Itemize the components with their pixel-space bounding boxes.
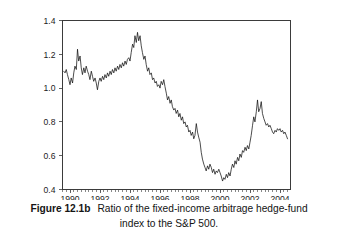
x-tick-label: 1996 — [150, 194, 169, 200]
figure-caption: Figure 12.1bRatio of the fixed-income ar… — [0, 202, 338, 231]
figure-container: 0.40.60.81.01.21.4 199019921994199619982… — [0, 0, 338, 247]
x-axis-tick-labels: 19901992199419961998200020022004 — [60, 194, 289, 200]
y-tick-label: 0.8 — [44, 117, 56, 127]
y-tick-label: 0.4 — [44, 185, 56, 195]
x-tick-label: 1992 — [90, 194, 109, 200]
x-tick-label: 2004 — [270, 194, 289, 200]
x-tick-label: 1994 — [120, 194, 139, 200]
y-tick-label: 0.6 — [44, 151, 56, 161]
x-tick-label: 2002 — [240, 194, 259, 200]
chart-plot-area: 0.40.60.81.01.21.4 199019921994199619982… — [0, 0, 338, 200]
figure-number-label: Figure 12.1b — [30, 203, 90, 214]
ratio-series-line — [64, 32, 288, 181]
x-tick-label: 1990 — [60, 194, 79, 200]
plot-frame-border — [63, 21, 291, 190]
caption-first-line: Figure 12.1bRatio of the fixed-income ar… — [0, 202, 338, 217]
caption-text-line-2: index to the S&P 500. — [0, 217, 338, 232]
y-tick-label: 1.2 — [44, 50, 56, 60]
line-chart: 0.40.60.81.01.21.4 199019921994199619982… — [0, 0, 338, 200]
caption-text-line-1: Ratio of the fixed-income arbitrage hedg… — [97, 203, 307, 214]
y-tick-label: 1.0 — [44, 83, 56, 93]
y-axis-tick-labels: 0.40.60.81.01.21.4 — [44, 16, 56, 195]
x-axis-tick-marks — [63, 190, 288, 194]
x-tick-label: 1998 — [180, 194, 199, 200]
y-tick-label: 1.4 — [44, 16, 56, 26]
x-tick-label: 2000 — [210, 194, 229, 200]
